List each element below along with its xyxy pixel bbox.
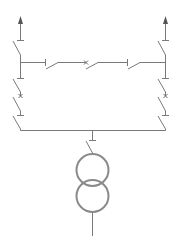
left-lower-disconnector: [13, 116, 24, 131]
right-top-disconnector: [158, 41, 169, 79]
right-upper-disconnector: [158, 79, 169, 97]
left-feeder: [13, 16, 24, 131]
left-upper-disconnector: [13, 79, 24, 97]
transformer-disconnector: [86, 141, 96, 154]
transformer-branch: [77, 131, 109, 237]
transformer-icon: [77, 154, 109, 212]
bus-tie-left-disconnector: [46, 59, 59, 69]
bus-tie: [21, 59, 166, 69]
left-outgoing-arrow-icon: [18, 16, 23, 40]
bus-tie-circuit-breaker: [84, 61, 98, 70]
right-outgoing-arrow-icon: [163, 16, 168, 40]
bus-tie-right-disconnector: [128, 59, 141, 69]
right-feeder: [158, 16, 169, 131]
right-lower-disconnector: [158, 116, 169, 131]
left-top-disconnector: [13, 41, 24, 79]
left-circuit-breaker: [13, 94, 23, 115]
single-line-diagram: [0, 0, 179, 248]
right-circuit-breaker: [158, 94, 168, 115]
